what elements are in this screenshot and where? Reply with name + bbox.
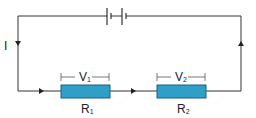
circuit-diagram: I V1 V2 R1 R2 xyxy=(0,0,256,118)
r1-subscript: 1 xyxy=(90,108,94,115)
r2-subscript: 2 xyxy=(186,108,190,115)
r1-symbol: R xyxy=(81,102,90,116)
arrow-right-icon xyxy=(131,88,136,94)
r2-symbol: R xyxy=(177,102,186,116)
wires xyxy=(18,16,241,91)
v2-subscript: 2 xyxy=(183,76,187,83)
arrow-down-icon xyxy=(15,41,21,46)
resistor-label-r1: R1 xyxy=(81,103,94,115)
resistor-r2 xyxy=(157,85,206,98)
v1-symbol: V xyxy=(79,70,87,84)
resistor-r1 xyxy=(61,85,110,98)
v1-subscript: 1 xyxy=(87,76,91,83)
resistor-label-r2: R2 xyxy=(177,103,190,115)
voltage-label-v2: V2 xyxy=(175,71,187,83)
circuit-svg xyxy=(0,0,256,118)
v2-symbol: V xyxy=(175,70,183,84)
arrow-up-icon xyxy=(238,41,244,46)
arrow-right-icon xyxy=(39,88,44,94)
current-label: I xyxy=(4,40,7,52)
voltage-label-v1: V1 xyxy=(79,71,91,83)
current-arrows xyxy=(15,41,244,94)
battery-icon xyxy=(107,8,126,25)
